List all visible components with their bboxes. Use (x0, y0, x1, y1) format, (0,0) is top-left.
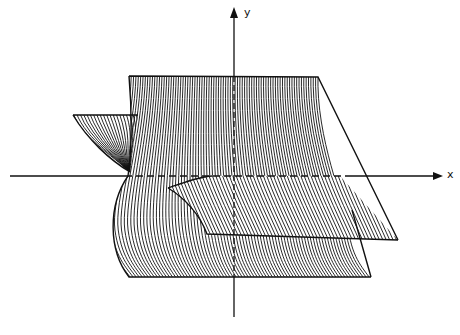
y-axis-label: y (244, 6, 251, 19)
x-axis-arrow-icon (433, 172, 443, 180)
x-axis-label: x (447, 168, 454, 181)
folded-surface-figure (0, 0, 460, 335)
y-axis-arrow-icon (230, 7, 238, 18)
